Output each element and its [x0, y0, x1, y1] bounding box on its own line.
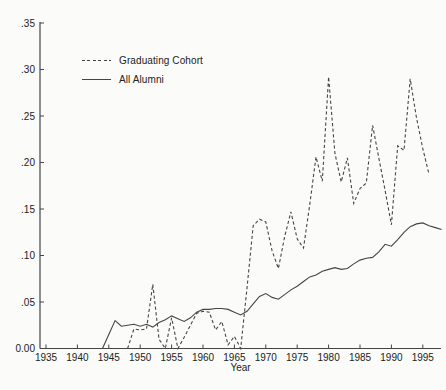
legend-label-all-alumni: All Alumni [119, 74, 164, 85]
y-tick-label: .35 [21, 18, 35, 29]
y-tick-label: 0.00 [16, 343, 36, 354]
y-tick-label: .20 [21, 157, 35, 168]
legend: Graduating Cohort All Alumni [82, 54, 203, 92]
legend-item-graduating-cohort: Graduating Cohort [82, 54, 203, 66]
legend-item-all-alumni: All Alumni [82, 73, 203, 85]
solid-line-key-icon [82, 79, 111, 80]
legend-label-graduating-cohort: Graduating Cohort [119, 55, 203, 66]
y-tick-label: .05 [21, 297, 35, 308]
x-axis-title: Year [35, 362, 446, 373]
graduating-cohort-line [128, 77, 430, 349]
line-chart-figure: 1935194019451950195519601965197019751980… [0, 0, 446, 390]
y-tick-label: .10 [21, 250, 35, 261]
y-tick-label: .15 [21, 204, 35, 215]
dashed-line-key-icon [82, 60, 111, 61]
y-tick-label: .30 [21, 64, 35, 75]
chart-canvas: 1935194019451950195519601965197019751980… [0, 0, 446, 390]
y-tick-label: .25 [21, 111, 35, 122]
